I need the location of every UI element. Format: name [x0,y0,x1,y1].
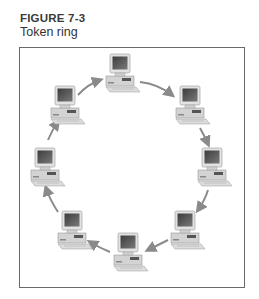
computer-icon [171,211,205,249]
computer-icon [58,211,92,249]
computer-icon [31,148,65,186]
arrow-7 [46,188,58,212]
computer-icon [106,54,140,92]
computer-icon [176,86,210,124]
computer-icon [114,233,148,271]
arrow-1 [78,80,100,95]
arrow-4 [198,190,208,210]
token-ring-diagram [0,0,259,299]
arrow-3 [200,128,208,144]
computer-nodes [31,54,232,271]
arrow-8 [48,122,58,140]
arrow-5 [148,240,168,250]
computer-icon [198,148,232,186]
arrow-6 [90,242,110,252]
arrow-2 [140,82,172,95]
